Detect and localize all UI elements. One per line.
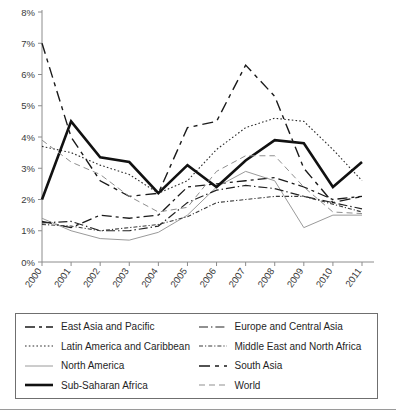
chart-plot-area: 0%1%2%3%4%5%6%7%8% 200020012002200320042… [0,0,396,300]
series-lines [42,43,362,240]
legend-item[interactable]: Europe and Central Asia [198,321,372,332]
y-tick-label: 0% [21,257,35,268]
y-tick-label: 2% [21,194,35,205]
legend-item[interactable]: Middle East and North Africa [198,341,372,352]
x-tick-label: 2009 [284,266,305,290]
legend-label: Latin America and Caribbean [61,341,190,352]
legend-label: Europe and Central Asia [235,321,343,332]
legend-label: World [235,380,261,391]
x-tick-label: 2007 [226,266,247,290]
x-tick-label: 2005 [168,266,189,290]
legend-swatch-icon [198,341,228,351]
line-chart-svg: 0%1%2%3%4%5%6%7%8% 200020012002200320042… [0,0,396,300]
legend-label: Middle East and North Africa [235,341,362,352]
chart-page: 0%1%2%3%4%5%6%7%8% 200020012002200320042… [0,0,396,420]
legend-label: North America [61,360,124,371]
x-tick-label: 2008 [255,266,276,290]
y-tick-label: 6% [21,69,35,80]
chart-legend: East Asia and PacificEurope and Central … [15,313,378,399]
legend-swatch-icon [24,322,54,332]
series-line-latin-america-and-caribbean [42,118,362,193]
y-axis: 0%1%2%3%4%5%6%7%8% [21,7,42,268]
y-tick-label: 8% [21,7,35,18]
legend-label: South Asia [235,360,283,371]
x-tick-label: 2000 [23,266,44,290]
series-line-north-america [42,171,362,240]
legend-swatch-icon [24,341,54,351]
legend-swatch-icon [24,361,54,371]
legend-swatch-icon [198,380,228,390]
legend-swatch-icon [198,361,228,371]
x-tick-label: 2006 [197,266,218,290]
legend-swatch-icon [24,380,54,390]
y-tick-label: 3% [21,163,35,174]
y-tick-label: 1% [21,225,35,236]
legend-swatch-icon [198,322,228,332]
series-line-south-asia [42,43,362,202]
x-tick-label: 2004 [139,266,160,290]
y-tick-label: 5% [21,100,35,111]
x-axis: 2000200120022003200420052006200720082009… [23,262,374,289]
y-tick-label: 4% [21,132,35,143]
x-tick-label: 2002 [81,266,102,290]
legend-label: Sub-Saharan Africa [61,380,148,391]
x-tick-label: 2010 [313,266,334,290]
legend-grid: East Asia and PacificEurope and Central … [16,314,377,398]
legend-item[interactable]: Latin America and Caribbean [24,341,198,352]
series-line-east-asia-and-pacific [42,178,362,228]
legend-item[interactable]: North America [24,360,198,371]
x-tick-label: 2011 [343,266,364,289]
y-tick-label: 7% [21,38,35,49]
x-tick-label: 2001 [52,266,73,290]
legend-item[interactable]: South Asia [198,360,372,371]
series-line-europe-and-central-asia [42,185,362,230]
legend-item[interactable]: Sub-Saharan Africa [24,380,198,391]
legend-item[interactable]: East Asia and Pacific [24,321,198,332]
legend-item[interactable]: World [198,380,372,391]
x-tick-label: 2003 [110,266,131,290]
bottom-divider [0,409,396,410]
legend-label: East Asia and Pacific [61,321,154,332]
